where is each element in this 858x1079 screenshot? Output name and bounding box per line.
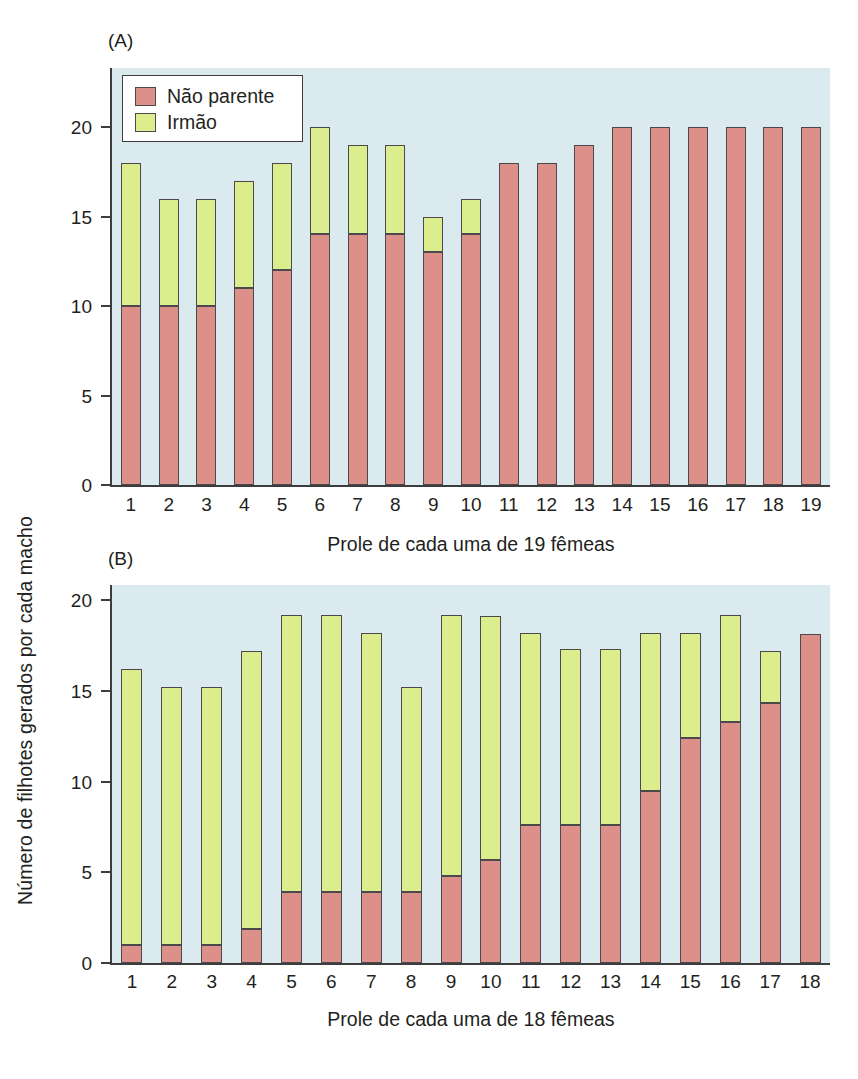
panel-a-label: (A)	[108, 30, 133, 52]
x-axis-line	[110, 485, 830, 487]
bar-segment-kin	[121, 163, 141, 306]
y-tick-label: 10	[32, 297, 92, 316]
bar-segment-kin	[234, 181, 254, 288]
x-tick-label: 16	[708, 972, 752, 991]
bar-7	[348, 145, 368, 485]
bar-segment-nonkin	[801, 127, 821, 485]
bar-segment-nonkin	[520, 825, 541, 963]
bar-segment-nonkin	[385, 234, 405, 485]
x-tick-label: 9	[429, 972, 473, 991]
bar-segment-kin	[640, 633, 661, 791]
figure-container: Número de filhotes gerados por cada mach…	[0, 0, 858, 1079]
legend-item-kin: Irmão	[135, 109, 290, 135]
bar-8	[385, 145, 405, 485]
bar-segment-nonkin	[720, 722, 741, 963]
bar-segment-kin	[310, 127, 330, 234]
y-tick-mark	[101, 690, 110, 692]
y-axis-title-container: Número de filhotes gerados por cada mach…	[0, 0, 52, 1000]
bar-19	[801, 127, 821, 485]
bar-segment-kin	[385, 145, 405, 235]
bar-segment-nonkin	[241, 929, 262, 963]
y-tick-label: 5	[32, 387, 92, 406]
bar-segment-nonkin	[310, 234, 330, 485]
bar-segment-nonkin	[480, 860, 501, 963]
bar-segment-nonkin	[688, 127, 708, 485]
legend-item-nonkin: Não parente	[135, 83, 290, 109]
chart-legend: Não parente Irmão	[122, 75, 303, 142]
bar-5	[281, 615, 302, 963]
bar-segment-nonkin	[272, 270, 292, 485]
bar-segment-nonkin	[161, 945, 182, 963]
y-tick-label: 10	[32, 773, 92, 792]
bar-8	[401, 687, 422, 963]
legend-label-nonkin: Não parente	[167, 85, 274, 108]
bar-14	[612, 127, 632, 485]
x-tick-label: 1	[110, 972, 154, 991]
x-tick-label: 11	[509, 972, 553, 991]
y-tick-label: 0	[32, 476, 92, 495]
bar-15	[650, 127, 670, 485]
bar-18	[763, 127, 783, 485]
bar-segment-kin	[241, 651, 262, 929]
panel-b-x-axis-title: Prole de cada uma de 18 fêmeas	[112, 1008, 830, 1031]
bar-segment-nonkin	[640, 791, 661, 963]
y-tick-label: 20	[32, 591, 92, 610]
bar-7	[361, 633, 382, 963]
bar-2	[161, 687, 182, 963]
bar-segment-nonkin	[574, 145, 594, 485]
y-tick-mark	[101, 395, 110, 397]
y-tick-mark	[101, 216, 110, 218]
bar-6	[310, 127, 330, 485]
x-tick-label: 12	[549, 972, 593, 991]
bar-17	[726, 127, 746, 485]
bar-segment-nonkin	[281, 892, 302, 963]
bar-segment-nonkin	[234, 288, 254, 485]
bar-12	[537, 163, 557, 485]
bar-segment-nonkin	[159, 306, 179, 485]
bar-segment-kin	[720, 615, 741, 722]
bar-segment-kin	[600, 649, 621, 825]
bar-13	[600, 649, 621, 963]
bar-segment-nonkin	[201, 945, 222, 963]
x-tick-label: 13	[589, 972, 633, 991]
bar-segment-kin	[121, 669, 142, 945]
x-tick-label: 3	[190, 972, 234, 991]
y-tick-mark	[101, 871, 110, 873]
bar-segment-nonkin	[612, 127, 632, 485]
bar-11	[499, 163, 519, 485]
bar-segment-kin	[401, 687, 422, 892]
bar-5	[272, 163, 292, 485]
bar-segment-nonkin	[441, 876, 462, 963]
y-tick-label: 20	[32, 118, 92, 137]
x-tick-label: 7	[349, 972, 393, 991]
bar-2	[159, 199, 179, 485]
bar-segment-nonkin	[461, 234, 481, 485]
bar-segment-kin	[161, 687, 182, 945]
y-tick-mark	[101, 781, 110, 783]
bar-segment-kin	[520, 633, 541, 825]
bar-11	[520, 633, 541, 963]
x-tick-label: 19	[789, 495, 833, 514]
bar-13	[574, 145, 594, 485]
bar-segment-kin	[423, 217, 443, 253]
x-tick-label: 18	[788, 972, 832, 991]
bar-segment-kin	[281, 615, 302, 893]
bar-14	[640, 633, 661, 963]
legend-swatch-nonkin-icon	[135, 87, 156, 106]
y-tick-mark	[101, 484, 110, 486]
bar-6	[321, 615, 342, 963]
bar-3	[201, 687, 222, 963]
panel-a-x-axis-title: Prole de cada uma de 19 fêmeas	[112, 533, 830, 556]
bar-segment-nonkin	[321, 892, 342, 963]
bar-16	[688, 127, 708, 485]
bar-4	[234, 181, 254, 485]
bar-segment-kin	[760, 651, 781, 704]
y-tick-label: 15	[32, 208, 92, 227]
y-axis-title: Número de filhotes gerados por cada mach…	[14, 516, 37, 905]
x-tick-label: 17	[748, 972, 792, 991]
x-tick-label: 4	[230, 972, 274, 991]
bar-segment-kin	[321, 615, 342, 893]
x-axis-line	[110, 963, 830, 965]
bar-segment-kin	[441, 615, 462, 876]
y-tick-label: 0	[32, 954, 92, 973]
